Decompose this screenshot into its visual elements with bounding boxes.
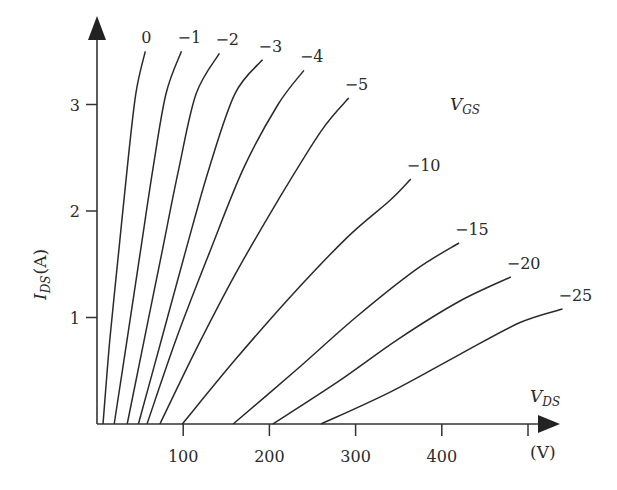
curve-label: −1 [177,28,201,47]
curve-vgs-m25 [321,309,562,424]
x-axis-title: VDS [530,386,560,409]
x-tick-label: 100 [168,447,199,466]
curve-label: −4 [300,47,324,66]
curves [103,51,563,424]
curve-vgs-m2 [127,53,219,424]
x-tick-label: 200 [254,447,285,466]
y-axis-title: IDS(A) [30,249,53,301]
y-tick-label: 2 [70,202,80,221]
curve-vgs-m20 [273,277,511,424]
legend-title: VGS [450,94,480,117]
x-ticks: 100200300400 [168,424,528,466]
iv-characteristics-chart: 100200300400 123 0−1−2−3−4−5−10−15−20−25… [0,0,617,490]
curve-vgs-m15 [233,243,459,424]
curve-vgs-m3 [138,60,262,424]
curve-label: −15 [455,220,489,239]
y-tick-label: 1 [70,309,80,328]
curve-label: −2 [215,30,239,49]
curve-label: −25 [558,286,592,305]
curve-label: −20 [507,254,541,273]
y-axis-arrow-icon [88,16,106,40]
y-ticks: 123 [70,96,97,328]
curve-vgs-m1 [114,51,181,424]
y-tick-label: 3 [70,96,80,115]
curve-label: −10 [407,156,441,175]
curve-label: −3 [259,37,283,56]
x-tick-label: 300 [340,447,371,466]
curve-label: 0 [141,28,151,47]
curve-vgs-m10 [182,179,410,424]
x-axis-unit: (V) [530,442,556,462]
curve-label: −5 [345,75,369,94]
x-axis-arrow-icon [538,415,560,433]
x-tick-label: 400 [427,447,458,466]
